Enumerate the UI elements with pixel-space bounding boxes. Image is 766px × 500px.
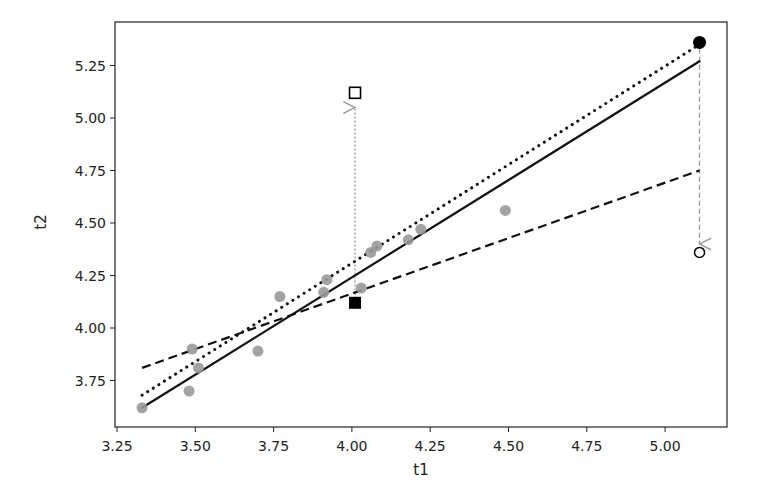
data-point [403,234,414,245]
y-tick-label: 4.75 [75,163,106,179]
data-point [371,241,382,252]
data-point [252,346,263,357]
data-points-layer [137,205,511,413]
fit-line-dashed [142,171,699,368]
x-axis-label: t1 [413,461,428,479]
x-axis-ticks: 3.253.503.754.004.254.504.755.00 [101,427,680,454]
x-tick-label: 4.50 [493,438,524,454]
y-tick-label: 4.00 [75,320,106,336]
y-axis-ticks: 3.754.004.254.504.755.005.25 [75,58,115,389]
circle-filled-marker [693,36,706,49]
square-filled-marker [349,297,361,309]
y-tick-label: 3.75 [75,373,106,389]
x-tick-label: 4.75 [571,438,602,454]
square-open-marker [350,87,361,98]
x-tick-label: 3.50 [180,438,211,454]
y-tick-label: 5.00 [75,110,106,126]
circle-open-marker [695,247,705,257]
scatter-plot: 3.253.503.754.004.254.504.755.00 3.754.0… [0,0,766,500]
special-markers-layer [349,36,706,309]
data-point [193,362,204,373]
x-tick-label: 5.00 [650,438,681,454]
data-point [415,224,426,235]
x-tick-label: 4.25 [415,438,446,454]
data-point [137,402,148,413]
chart: 3.253.503.754.004.254.504.755.00 3.754.0… [0,0,766,500]
x-tick-label: 3.75 [258,438,289,454]
y-tick-label: 4.50 [75,215,106,231]
data-point [318,287,329,298]
y-tick-label: 5.25 [75,58,106,74]
data-point [274,291,285,302]
data-point [184,386,195,397]
fit-line-dotted [142,45,699,396]
data-point [500,205,511,216]
x-tick-label: 4.00 [336,438,367,454]
y-axis-label: t2 [32,214,50,229]
arrows-layer [355,49,700,299]
y-tick-label: 4.25 [75,268,106,284]
data-point [187,344,198,355]
x-tick-label: 3.25 [101,438,132,454]
data-point [321,274,332,285]
data-point [356,283,367,294]
